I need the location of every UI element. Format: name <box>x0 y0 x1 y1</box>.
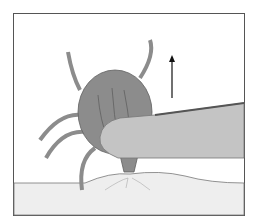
tick-removal-illustration <box>0 0 257 224</box>
